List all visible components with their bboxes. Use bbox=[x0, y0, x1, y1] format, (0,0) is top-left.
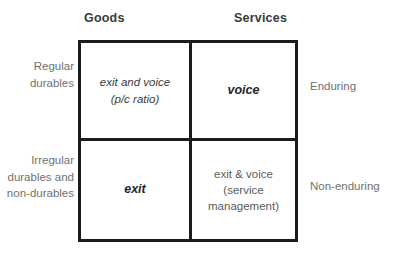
row-label-irregular-durables: Irregular durables and non-durables bbox=[7, 152, 74, 202]
matrix-grid: exit and voice (p/c ratio) voice exit ex… bbox=[78, 40, 298, 242]
matrix-cell-goods-regular: exit and voice (p/c ratio) bbox=[81, 43, 192, 141]
row-label-enduring: Enduring bbox=[310, 78, 356, 95]
matrix-cell-text-goods-regular: exit and voice (p/c ratio) bbox=[100, 74, 170, 107]
matrix-cell-text-goods-irregular: exit bbox=[124, 181, 146, 199]
column-header-services: Services bbox=[234, 11, 287, 25]
matrix-cell-goods-irregular: exit bbox=[81, 141, 192, 239]
matrix-cell-services-irregular: exit & voice (service management) bbox=[192, 141, 295, 239]
matrix-cell-text-services-irregular: exit & voice (service management) bbox=[208, 166, 279, 215]
column-header-goods: Goods bbox=[84, 11, 125, 25]
diagram-canvas: Goods Services Regular durables Irregula… bbox=[0, 0, 396, 257]
matrix-cell-text-services-regular: voice bbox=[228, 82, 260, 100]
matrix-cell-services-regular: voice bbox=[192, 43, 295, 141]
row-label-non-enduring: Non-enduring bbox=[310, 178, 380, 195]
row-label-regular-durables: Regular durables bbox=[30, 58, 74, 91]
